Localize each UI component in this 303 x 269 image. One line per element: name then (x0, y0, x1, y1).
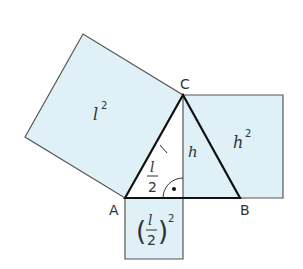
paren-right: ) (158, 216, 168, 246)
point-c-label: C (180, 76, 190, 92)
left-square-exp: 2 (101, 100, 107, 111)
half-l-numerator: l (150, 159, 154, 175)
left-square-label: l (93, 105, 98, 124)
height-label: h (188, 143, 198, 161)
half-l-denominator: 2 (148, 179, 157, 195)
right-angle-dot (172, 187, 176, 191)
bottom-square-numerator: l (148, 212, 152, 228)
point-a-label: A (109, 202, 119, 218)
paren-left: ( (136, 216, 146, 246)
square-half-l-squared (125, 198, 183, 259)
right-square-label: h (233, 133, 243, 152)
pythagoras-diagram: C A B l 2 h 2 h l 2 ( l 2 ) 2 (0, 0, 303, 269)
bottom-square-exp: 2 (168, 213, 174, 224)
bottom-square-denominator: 2 (147, 232, 156, 248)
point-b-label: B (240, 202, 250, 218)
right-square-exp: 2 (245, 128, 251, 139)
